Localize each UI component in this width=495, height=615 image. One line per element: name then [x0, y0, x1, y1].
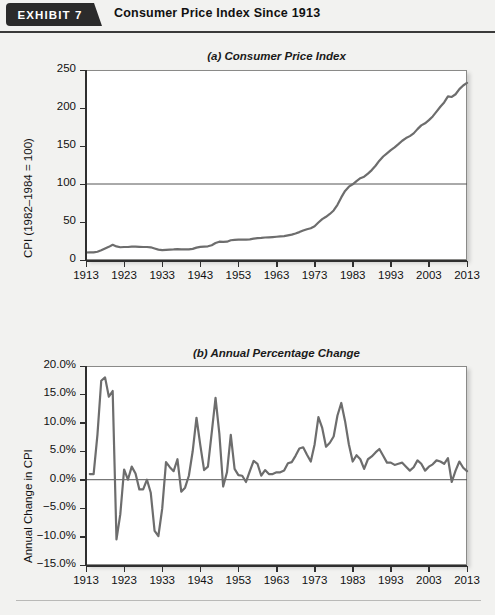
b-y-tick-label: −5.0% — [2, 500, 76, 512]
b-x-tick-label: 2013 — [441, 574, 493, 586]
b-data-line — [90, 377, 467, 539]
b-y-tick-label: 5.0% — [2, 443, 76, 455]
b-x-tick — [124, 566, 126, 572]
b-y-tick-label: −15.0% — [2, 557, 76, 569]
b-x-tick — [276, 566, 278, 572]
b-y-tick-label: 0.0% — [2, 472, 76, 484]
b-y-tick — [80, 508, 86, 510]
b-x-tick — [162, 566, 164, 572]
chart-b-series-layer — [0, 0, 495, 615]
b-y-tick — [80, 479, 86, 481]
b-y-tick-label: 15.0% — [2, 386, 76, 398]
b-x-tick — [428, 566, 430, 572]
b-y-tick — [80, 422, 86, 424]
b-x-tick — [467, 566, 469, 572]
b-y-tick — [80, 451, 86, 453]
b-y-tick — [80, 366, 86, 368]
b-y-tick-label: −10.0% — [2, 529, 76, 541]
b-x-tick — [352, 566, 354, 572]
b-y-tick — [80, 394, 86, 396]
b-y-tick-label: 10.0% — [2, 415, 76, 427]
b-x-tick — [86, 566, 88, 572]
b-x-tick — [314, 566, 316, 572]
b-x-tick — [390, 566, 392, 572]
b-y-tick-label: 20.0% — [2, 358, 76, 370]
b-x-tick — [238, 566, 240, 572]
b-x-tick — [200, 566, 202, 572]
b-y-tick — [80, 536, 86, 538]
